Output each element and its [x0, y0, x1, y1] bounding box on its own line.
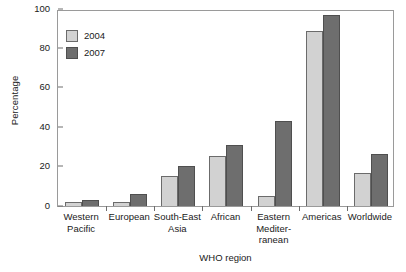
bar-group [347, 11, 395, 206]
legend-item-2004: 2004 [66, 30, 105, 42]
bar-2007 [323, 15, 340, 206]
y-tick-label: 80 [39, 41, 50, 53]
bar-2004 [354, 173, 371, 206]
bar-2007 [371, 154, 388, 206]
legend-swatch-2004 [66, 30, 78, 42]
bar-2007 [275, 121, 292, 206]
x-axis-category-label: Worldwide [340, 211, 400, 223]
y-tick-label: 60 [39, 81, 50, 93]
y-tick-mark [58, 8, 63, 9]
bar-group [106, 11, 154, 206]
bar-group [251, 11, 299, 206]
y-tick-label: 40 [39, 120, 50, 132]
legend-label-2004: 2004 [84, 30, 105, 42]
bar-2007 [82, 200, 99, 206]
plot-inner: 020406080100 [58, 11, 393, 206]
plot-area: 020406080100 [57, 10, 394, 207]
legend-swatch-2007 [66, 47, 78, 59]
bar-2004 [65, 202, 82, 206]
x-axis-title: WHO region [57, 252, 394, 263]
bar-group [202, 11, 250, 206]
chart-legend: 2004 2007 [66, 30, 105, 64]
bar-2004 [306, 31, 323, 206]
bar-2007 [178, 166, 195, 206]
y-axis-title: Percentage [9, 56, 20, 146]
bar-2004 [258, 196, 275, 206]
legend-item-2007: 2007 [66, 47, 105, 59]
bar-group [299, 11, 347, 206]
bar-2004 [161, 176, 178, 206]
bar-2004 [209, 156, 226, 206]
y-tick-label: 100 [34, 2, 50, 14]
y-tick-label: 20 [39, 160, 50, 172]
bar-group [154, 11, 202, 206]
bar-chart-figure: Percentage 020406080100 2004 2007 WHO re… [0, 0, 406, 272]
bar-2007 [130, 194, 147, 206]
legend-label-2007: 2007 [84, 47, 105, 59]
bar-2007 [226, 145, 243, 206]
y-tick-label: 0 [45, 199, 50, 211]
bar-2004 [113, 202, 130, 206]
